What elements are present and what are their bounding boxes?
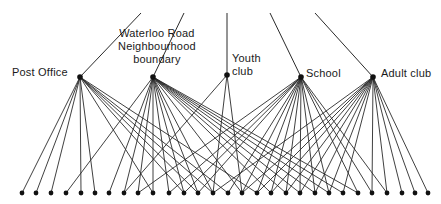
member-node: [400, 191, 405, 196]
member-node: [284, 191, 289, 196]
edge: [329, 77, 373, 193]
hub-label-adult-club: Adult club: [381, 67, 431, 80]
hub-label-youth-club: Youth club: [232, 52, 261, 78]
hub-node: [224, 72, 230, 78]
member-node: [255, 191, 260, 196]
member-node: [167, 191, 172, 196]
edge: [80, 77, 95, 193]
youth-label-line-2: club: [232, 65, 261, 78]
waterloo-label-line-1: Waterloo Road: [118, 27, 196, 40]
member-node: [151, 191, 156, 196]
edge: [373, 77, 428, 193]
edge: [373, 77, 387, 193]
edge: [124, 77, 153, 193]
hub-label-post-office: Post Office: [12, 66, 68, 79]
member-node: [107, 191, 112, 196]
boundary-line: [270, 13, 301, 77]
edge: [242, 77, 373, 193]
member-node: [196, 191, 201, 196]
member-node: [413, 191, 418, 196]
hub-label-school: School: [306, 67, 341, 80]
member-node: [211, 191, 216, 196]
member-nodes: [20, 191, 431, 196]
hub-node: [77, 74, 83, 80]
member-node: [122, 191, 127, 196]
edge: [372, 77, 373, 193]
edge: [373, 77, 402, 193]
member-node: [269, 191, 274, 196]
member-node: [341, 191, 346, 196]
edge: [80, 77, 81, 193]
edge: [169, 77, 301, 193]
member-node: [136, 191, 141, 196]
hub-node: [150, 74, 156, 80]
member-node: [426, 191, 431, 196]
member-node: [34, 191, 39, 196]
member-node: [20, 191, 25, 196]
youth-label-line-1: Youth: [232, 52, 261, 65]
edge: [153, 77, 315, 193]
edge: [80, 77, 228, 193]
edge: [153, 77, 271, 193]
member-node: [240, 191, 245, 196]
member-node: [385, 191, 390, 196]
member-node: [49, 191, 54, 196]
edge: [22, 77, 80, 193]
member-node: [226, 191, 231, 196]
member-node: [327, 191, 332, 196]
edges: [22, 75, 428, 193]
member-node: [313, 191, 318, 196]
member-node: [370, 191, 375, 196]
edge: [373, 77, 415, 193]
member-node: [356, 191, 361, 196]
member-node: [298, 191, 303, 196]
member-node: [79, 191, 84, 196]
hub-node: [370, 74, 376, 80]
edge: [300, 77, 373, 193]
edge: [153, 77, 358, 193]
edge: [300, 77, 301, 193]
edge: [242, 77, 301, 193]
waterloo-label-line-3: boundary: [118, 53, 196, 66]
edge: [51, 77, 80, 193]
member-node: [182, 191, 187, 196]
edge: [80, 77, 153, 193]
hub-label-waterloo: Waterloo Road Neighbourhood boundary: [118, 27, 196, 66]
waterloo-label-line-2: Neighbourhood: [118, 40, 196, 53]
edge: [315, 77, 373, 193]
edge: [184, 77, 301, 193]
member-node: [93, 191, 98, 196]
network-diagram: [0, 0, 441, 204]
edge: [36, 77, 80, 193]
hub-node: [298, 74, 304, 80]
edge: [257, 77, 301, 193]
member-node: [64, 191, 69, 196]
